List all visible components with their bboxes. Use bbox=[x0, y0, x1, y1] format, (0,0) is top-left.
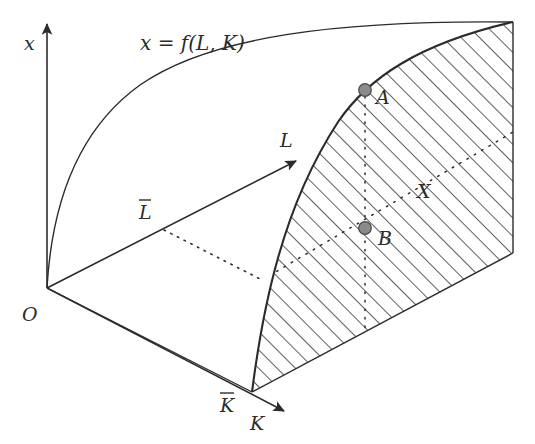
region-X-label: X bbox=[415, 180, 432, 202]
x-axis-label: x bbox=[24, 32, 35, 54]
L-bar-projection-line bbox=[164, 230, 262, 280]
K-axis-label: K bbox=[249, 412, 266, 434]
construction-lines-group bbox=[164, 230, 262, 280]
base-plane-group bbox=[47, 288, 252, 392]
figure-container: x x = f(L, K) O L L K K A B X bbox=[0, 0, 535, 444]
L-bar-label: L bbox=[138, 200, 152, 223]
point-A-label: A bbox=[374, 86, 390, 108]
production-function-diagram: x x = f(L, K) O L L K K A B X bbox=[0, 0, 535, 444]
origin-label: O bbox=[22, 303, 38, 325]
cross-section-fill bbox=[252, 22, 513, 392]
K-bar-letter: K bbox=[219, 394, 236, 416]
L-bar-letter: L bbox=[138, 201, 152, 223]
L-axis-line bbox=[47, 161, 296, 288]
point-A-marker[interactable] bbox=[359, 84, 372, 97]
point-B-label: B bbox=[377, 227, 392, 249]
base-K-edge bbox=[47, 288, 252, 392]
K-bar-label: K bbox=[219, 393, 236, 416]
hatched-cross-section bbox=[252, 22, 513, 392]
L-axis-label: L bbox=[279, 129, 293, 151]
surface-equation-label: x = f(L, K) bbox=[140, 31, 245, 55]
point-B-marker[interactable] bbox=[359, 222, 372, 235]
